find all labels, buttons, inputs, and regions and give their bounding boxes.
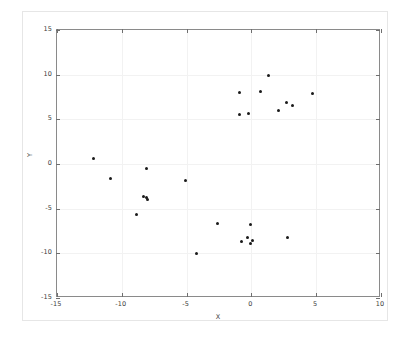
scatter-point [259, 90, 262, 93]
x-tick-label: 10 [376, 300, 384, 308]
plot-area [56, 29, 380, 297]
y-tick-mark [56, 298, 60, 299]
scatter-point [195, 252, 198, 255]
scatter-point [216, 222, 219, 225]
y-tick-mark [376, 209, 380, 210]
scatter-point [109, 177, 112, 180]
scatter-point [267, 74, 270, 77]
y-tick-mark [376, 164, 380, 165]
scatter-point [145, 167, 148, 170]
scatter-point [238, 91, 241, 94]
x-tick-mark [187, 29, 188, 33]
scatter-point [146, 198, 149, 201]
y-tick-mark [376, 253, 380, 254]
y-tick-label: 0 [34, 159, 52, 167]
scatter-point [277, 109, 280, 112]
x-tick-mark [251, 293, 252, 297]
scatter-point [286, 236, 289, 239]
y-tick-mark [376, 119, 380, 120]
scatter-point [249, 223, 252, 226]
y-tick-mark [376, 298, 380, 299]
x-tick-label: -5 [182, 300, 189, 308]
x-tick-mark [122, 29, 123, 33]
x-tick-mark [122, 293, 123, 297]
x-tick-mark [57, 293, 58, 297]
y-tick-mark [376, 30, 380, 31]
x-tick-mark [316, 29, 317, 33]
scatter-point [238, 113, 241, 116]
scatter-point [285, 101, 288, 104]
y-axis-label: Y [26, 153, 34, 157]
x-tick-label: 0 [248, 300, 252, 308]
y-tick-label: -15 [34, 293, 52, 301]
y-tick-mark [56, 30, 60, 31]
y-tick-label: -10 [34, 248, 52, 256]
y-tick-label: -5 [34, 204, 52, 212]
x-tick-label: 5 [313, 300, 317, 308]
scatter-point [249, 242, 252, 245]
scatter-point [92, 157, 95, 160]
scatter-point [291, 104, 294, 107]
y-tick-mark [56, 75, 60, 76]
scatter-point [251, 239, 254, 242]
y-tick-label: 10 [34, 70, 52, 78]
scatter-points [57, 30, 379, 296]
x-tick-mark [251, 29, 252, 33]
x-tick-mark [381, 293, 382, 297]
x-tick-label: -10 [115, 300, 126, 308]
y-tick-label: 15 [34, 25, 52, 33]
scatter-point [135, 213, 138, 216]
y-tick-mark [376, 75, 380, 76]
figure-canvas: -15-10-50510 -15-10-5051015 X Y [0, 0, 407, 339]
y-tick-mark [56, 164, 60, 165]
scatter-point [247, 112, 250, 115]
y-tick-mark [56, 119, 60, 120]
y-tick-mark [56, 253, 60, 254]
x-tick-mark [316, 293, 317, 297]
scatter-point [311, 92, 314, 95]
x-tick-label: -15 [51, 300, 62, 308]
y-tick-mark [56, 209, 60, 210]
x-tick-mark [187, 293, 188, 297]
x-axis-label: X [56, 313, 380, 321]
x-tick-mark [381, 29, 382, 33]
scatter-point [246, 236, 249, 239]
scatter-point [240, 240, 243, 243]
scatter-point [184, 179, 187, 182]
y-tick-label: 5 [34, 114, 52, 122]
